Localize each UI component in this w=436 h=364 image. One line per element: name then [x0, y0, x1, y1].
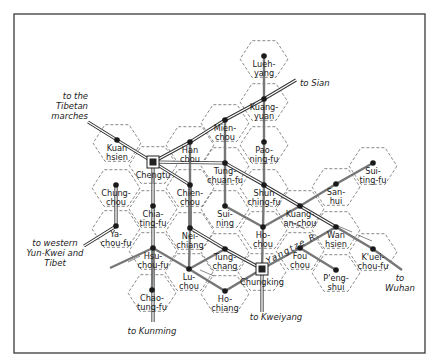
place-label-lueh-yang: Lueh-yang — [253, 59, 276, 78]
direction-to-sian: to Sian — [300, 78, 330, 88]
peng-shui-town-marker[interactable] — [333, 267, 339, 273]
direction-to-kweiyang: to Kweiyang — [250, 312, 303, 322]
place-label-peng-shui: P'eng-shui — [323, 273, 349, 292]
direction-to-wuhan: toWuhan — [385, 273, 415, 293]
pao-ning-fu-town-marker[interactable] — [261, 139, 267, 145]
sui-ting-fu-town-marker[interactable] — [370, 160, 376, 166]
place-label-kuang-an-chou: Kuang-an-chou — [283, 209, 316, 228]
chungking-city-core — [259, 266, 266, 273]
place-label-chengtu: Chengtu — [136, 170, 171, 180]
place-label-kuei-chou-fu: K'uei-chou-fu — [358, 252, 389, 271]
kuang-an-chou-town-marker[interactable] — [297, 203, 303, 209]
lueh-yang-town-marker[interactable] — [261, 53, 267, 59]
place-label-san-hui: San-hui — [327, 187, 345, 206]
wan-hsien-town-marker[interactable] — [333, 224, 339, 230]
ho-chiang-town-marker[interactable] — [222, 288, 228, 294]
map-canvas: Lueh-yangKuang-yuanPao-ning-fuMien-chouH… — [0, 0, 436, 364]
direction-to-western-yun-kwei: to westernYun-Kwei andTibet — [26, 238, 84, 268]
place-label-chia-ting-fu: Chia-ting-fu — [140, 209, 167, 228]
nei-chiang-town-marker[interactable] — [187, 225, 193, 231]
place-label-lu-chou: Lu-chou — [179, 272, 199, 291]
kuan-hsien-town-marker[interactable] — [114, 137, 120, 143]
tung-chang-town-marker[interactable] — [222, 246, 228, 252]
place-label-chien-chou: Chien-chou — [177, 188, 203, 207]
san-hui-town-marker[interactable] — [333, 181, 339, 187]
chien-chou-town-marker[interactable] — [187, 182, 193, 188]
place-label-chung-chou: Chung-chou — [101, 188, 130, 207]
ya-chou-fu-town-marker[interactable] — [113, 223, 119, 229]
direction-to-kunming: to Kunming — [128, 326, 177, 336]
place-label-chungking: Chungking — [240, 277, 284, 287]
place-label-ho-chou: Ho-chou — [253, 230, 273, 249]
place-label-ho-chiang: Ho-chiang — [211, 294, 238, 313]
place-label-kuang-yuan: Kuang-yuan — [250, 102, 279, 121]
place-label-fou-chou: Fouchou — [290, 251, 310, 270]
direction-to-tibetan-marches: to theTibetanmarches — [51, 91, 88, 121]
kuei-chou-fu-town-marker[interactable] — [370, 246, 376, 252]
place-label-mien-chou: Mien-chou — [214, 123, 237, 142]
kuang-yuan-town-marker[interactable] — [261, 96, 267, 102]
mien-chou-town-marker[interactable] — [222, 117, 228, 123]
place-label-pao-ning-fu: Pao-ning-fu — [250, 145, 279, 164]
lu-chou-town-marker[interactable] — [186, 266, 192, 272]
hsu-chou-fu-town-marker[interactable] — [150, 245, 156, 251]
chao-tung-fu-town-marker[interactable] — [149, 287, 155, 293]
place-label-han-chou: Hanchou — [180, 145, 200, 164]
place-label-tung-chang: Tung-chang — [212, 252, 237, 271]
sui-ning-town-marker[interactable] — [222, 203, 228, 209]
tung-chuan-fu-town-marker[interactable] — [222, 160, 228, 166]
place-label-kuan-hsien: Kuanhsien — [106, 143, 128, 162]
shun-ching-fu-town-marker[interactable] — [261, 182, 267, 188]
chengtu-city-core — [150, 159, 157, 166]
place-label-wan-hsien: Wanhsien — [325, 230, 347, 249]
ho-chou-town-marker[interactable] — [260, 224, 266, 230]
chung-chou-town-marker[interactable] — [113, 182, 119, 188]
place-label-sui-ning: Sui-ning — [216, 209, 234, 228]
chia-ting-fu-town-marker[interactable] — [150, 203, 156, 209]
place-labels: Lueh-yangKuang-yuanPao-ning-fuMien-chouH… — [101, 59, 389, 313]
place-label-chao-tung-fu: Chao-tung-fu — [137, 293, 167, 312]
han-chou-town-marker[interactable] — [187, 139, 193, 145]
